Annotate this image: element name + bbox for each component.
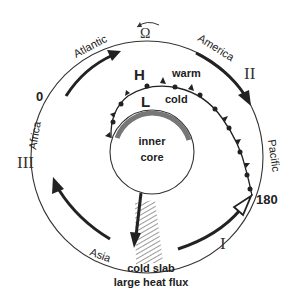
inner-core-label-2: core	[140, 151, 163, 163]
region-america: America	[196, 32, 237, 64]
heat-flux-label: large heat flux	[114, 276, 189, 288]
flow-arrow-asia	[59, 190, 110, 239]
region-africa: Africa	[26, 120, 43, 151]
high-label: H	[134, 66, 145, 83]
outer-core-circulation-diagram: Ω Atlantic America Pacific Asia Africa 0…	[0, 0, 295, 300]
cold-slab-label: cold slab	[127, 262, 175, 274]
longitude-0: 0	[36, 89, 43, 104]
flow-arrow-atlantic	[66, 55, 113, 96]
longitude-180: 180	[256, 192, 278, 207]
cold-label: cold	[165, 93, 188, 105]
low-label: L	[141, 93, 150, 110]
flow-arrow-america	[196, 53, 244, 94]
inner-core-label-1: inner	[139, 135, 167, 147]
region-asia: Asia	[88, 246, 113, 265]
region-pacific: Pacific	[266, 139, 282, 173]
flow-arrow-stage-I	[178, 210, 240, 249]
omega-label: Ω	[140, 26, 150, 41]
stage-I: I	[220, 234, 226, 253]
warm-label: warm	[171, 67, 201, 79]
stage-II: II	[244, 64, 256, 83]
stage-III: III	[17, 153, 34, 172]
